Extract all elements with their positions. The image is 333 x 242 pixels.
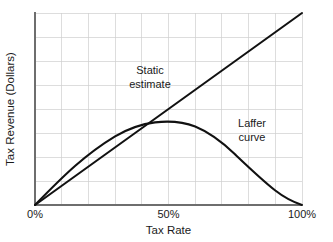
x-tick-label-0: 0%	[27, 208, 43, 220]
x-tick-label-50: 50%	[157, 208, 179, 220]
laffer-curve-label-line1: Laffer	[238, 117, 266, 129]
chart-canvas: 0% 50% 100% Tax Rate Tax Revenue (Dollar…	[0, 0, 333, 242]
y-axis-title: Tax Revenue (Dollars)	[4, 52, 16, 166]
static-estimate-label-line2: estimate	[129, 78, 171, 90]
laffer-curve-label-line2: curve	[239, 131, 266, 143]
static-estimate-label-line1: Static	[136, 64, 164, 76]
x-tick-label-100: 100%	[288, 208, 316, 220]
laffer-curve-chart: 0% 50% 100% Tax Rate Tax Revenue (Dollar…	[0, 0, 333, 242]
x-axis-title: Tax Rate	[146, 224, 191, 236]
